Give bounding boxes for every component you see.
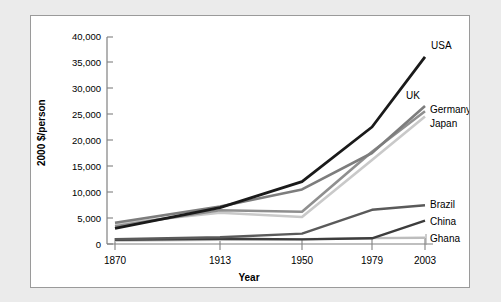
x-tick-label: 1913 — [209, 255, 232, 266]
series-japan — [115, 117, 425, 224]
series-label-china: China — [430, 216, 457, 227]
series-label-germany: Germany — [430, 104, 469, 115]
y-tick-label: 15,000 — [72, 161, 101, 172]
series-usa — [115, 57, 425, 229]
x-tick-label: 1870 — [104, 255, 127, 266]
x-tick-labels: 1870 1913 1950 1979 2003 — [104, 255, 437, 266]
y-tick-label: 35,000 — [72, 57, 101, 68]
y-tick-labels: 0 5,000 10,000 15,000 20,000 25,000 30,0… — [72, 31, 101, 250]
line-chart: 2000 $/person 0 5,000 10,000 15,000 20,0… — [31, 16, 469, 287]
y-tick-label: 20,000 — [72, 135, 101, 146]
x-axis-title: Year — [238, 272, 259, 283]
y-tick-label: 25,000 — [72, 109, 101, 120]
y-tick-label: 10,000 — [72, 187, 101, 198]
chart-figure-panel: 2000 $/person 0 5,000 10,000 15,000 20,0… — [30, 15, 470, 288]
y-tick-label: 30,000 — [72, 83, 101, 94]
x-tick-label: 1979 — [361, 255, 384, 266]
series-label-ghana: Ghana — [430, 233, 460, 244]
series-label-brazil: Brazil — [430, 199, 455, 210]
series-label-usa: USA — [431, 40, 452, 51]
x-tick-label: 2003 — [414, 255, 437, 266]
series-uk — [115, 106, 425, 223]
series-label-uk: UK — [406, 90, 420, 101]
y-tick-label: 5,000 — [77, 213, 101, 224]
series-china — [115, 221, 425, 240]
y-tick-marks — [107, 37, 113, 244]
y-axis-title: 2000 $/person — [36, 99, 47, 166]
y-tick-label: 40,000 — [72, 31, 101, 42]
series-label-japan: Japan — [430, 118, 457, 129]
y-tick-label: 0 — [96, 239, 101, 250]
x-tick-label: 1950 — [291, 255, 314, 266]
